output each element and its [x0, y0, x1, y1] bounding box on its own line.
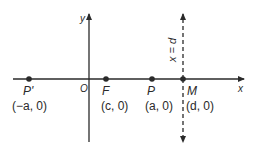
- point-p-prime-label: P': [23, 84, 34, 98]
- point-p-dot: [149, 76, 155, 82]
- point-f-dot: [103, 76, 109, 82]
- point-f-label: F: [102, 84, 110, 98]
- point-p-coord: (a, 0): [145, 99, 173, 113]
- origin-label: O: [80, 83, 88, 94]
- x-axis-label: x: [237, 83, 244, 94]
- coordinate-diagram: y x O x = d P' (−a, 0) F (c, 0) P (a, 0)…: [0, 0, 256, 154]
- point-p-label: P: [147, 84, 155, 98]
- point-m-label: M: [187, 84, 197, 98]
- y-axis-label: y: [79, 13, 86, 24]
- point-m-coord: (d, 0): [186, 99, 214, 113]
- directrix-label: x = d: [166, 37, 178, 63]
- point-f-coord: (c, 0): [101, 99, 128, 113]
- point-m-dot: [180, 76, 186, 82]
- point-p-prime-coord: (−a, 0): [12, 99, 47, 113]
- point-p-prime-dot: [26, 76, 32, 82]
